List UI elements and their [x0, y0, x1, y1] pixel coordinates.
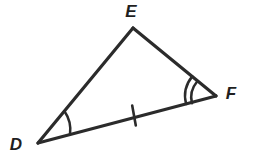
angle-arc-group-D	[65, 111, 71, 134]
triangle-def-svg: D E F	[0, 0, 253, 162]
vertex-label-D: D	[10, 135, 22, 154]
vertex-label-E: E	[125, 2, 137, 21]
angle-arc-D-1	[65, 111, 71, 134]
side-DE	[38, 28, 133, 143]
side-DF	[38, 96, 216, 143]
tick-mark-group-DF	[132, 106, 136, 126]
vertex-label-F: F	[226, 84, 237, 103]
geometry-figure-canvas: D E F	[0, 0, 253, 162]
side-EF	[133, 28, 216, 96]
triangle-sides	[38, 28, 216, 143]
tick-mark-DF-1	[132, 106, 136, 126]
